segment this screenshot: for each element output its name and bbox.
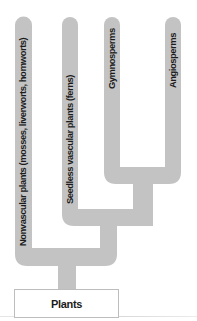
root-label: Plants — [51, 298, 82, 310]
label-gymnosperms: Gymnosperms — [106, 28, 118, 89]
label-nonvascular: Nonvascular plants (mosses, liverworts, … — [17, 38, 29, 246]
label-seedless: Seedless vascular plants (ferns) — [64, 75, 76, 204]
root-node-box: Plants — [14, 289, 119, 318]
label-angiosperms: Angiosperms — [167, 33, 179, 88]
